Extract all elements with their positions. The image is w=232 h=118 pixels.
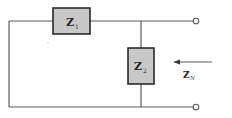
zn-label: Z [183, 70, 190, 80]
zn-arrow [173, 60, 212, 65]
terminal-bottom-right [193, 104, 199, 110]
zn-subscript: N [189, 75, 195, 81]
z1-subscript: 1 [75, 23, 79, 30]
z2-subscript: 2 [143, 67, 147, 74]
z1-label: Z [66, 16, 74, 29]
impedance-z1: Z 1 [53, 8, 90, 34]
arrow-left-icon [173, 60, 180, 65]
terminal-top-right [193, 18, 199, 24]
circuit-diagram: Z 1 Z 2 Z N [0, 0, 232, 118]
speck [47, 42, 48, 43]
z2-label: Z [134, 60, 142, 73]
impedance-z2: Z 2 [128, 48, 154, 84]
